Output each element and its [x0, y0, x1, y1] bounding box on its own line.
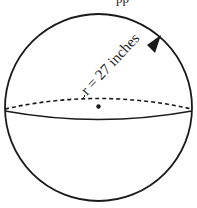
center-point: [96, 104, 100, 108]
clipped-caption-text: pp: [0, 0, 197, 7]
sphere-svg: r = 27 inches: [0, 0, 197, 208]
radius-arrowhead-icon: [147, 35, 161, 53]
equator-front-solid: [5, 111, 192, 120]
sphere-diagram: pp r = 27 inches: [0, 0, 197, 208]
radius-label: r = 27 inches: [77, 30, 142, 98]
